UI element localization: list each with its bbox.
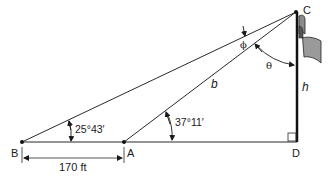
dimension-label-BA: 170 ft xyxy=(59,161,87,173)
phi-arrow xyxy=(243,26,245,36)
label-B: B xyxy=(11,147,18,159)
label-C: C xyxy=(303,4,311,16)
segment-label-h: h xyxy=(302,80,309,94)
line-BC xyxy=(22,12,296,142)
flag-icon xyxy=(299,15,321,63)
right-angle-marker xyxy=(288,133,296,141)
point-B xyxy=(20,140,24,144)
angle-label-B: 25°43′ xyxy=(75,123,105,135)
angle-label-theta: θ xyxy=(266,60,272,71)
line-AC xyxy=(124,12,296,142)
point-C xyxy=(294,10,298,14)
angle-label-phi: ϕ xyxy=(240,39,247,50)
flagpole-diagram: B A D C 25°43′ 37°11′ ϕ θ b h 170 ft xyxy=(0,0,328,182)
segment-label-b: b xyxy=(211,77,218,91)
angle-label-A: 37°11′ xyxy=(175,116,204,128)
label-A: A xyxy=(127,147,135,159)
point-A xyxy=(122,140,126,144)
theta-arc xyxy=(256,45,294,65)
label-D: D xyxy=(292,147,300,159)
